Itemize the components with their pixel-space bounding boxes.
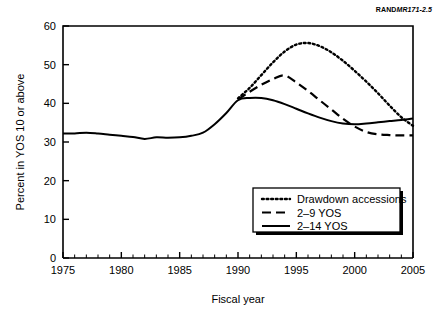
x-tick-label: 1980 — [109, 264, 133, 276]
y-tick-label: 60 — [44, 20, 56, 32]
y-tick-label: 40 — [44, 97, 56, 109]
line-chart: 1975198019851990199520002005 01020304050… — [0, 0, 442, 310]
data-series-group — [63, 43, 413, 139]
x-tick-label: 1990 — [226, 264, 250, 276]
y-tick-label: 20 — [44, 175, 56, 187]
y-tick-label: 10 — [44, 213, 56, 225]
legend-item-label: Drawdown accessions — [297, 193, 407, 205]
x-axis-title: Fiscal year — [211, 293, 265, 305]
series-line — [63, 98, 413, 139]
y-tick-label: 0 — [50, 252, 56, 264]
y-axis-tick-labels: 0102030405060 — [44, 20, 56, 264]
y-axis-ticks — [63, 26, 69, 258]
x-tick-label: 1995 — [284, 264, 308, 276]
y-axis-title: Percent in YOS 10 or above — [14, 74, 26, 211]
x-tick-label: 2005 — [401, 264, 425, 276]
series-line — [238, 75, 413, 135]
x-axis-ticks — [63, 252, 413, 258]
legend-item-label: 2–9 YOS — [297, 207, 341, 219]
x-tick-label: 2000 — [342, 264, 366, 276]
x-tick-label: 1985 — [167, 264, 191, 276]
x-axis-tick-labels: 1975198019851990199520002005 — [51, 264, 425, 276]
y-tick-label: 50 — [44, 59, 56, 71]
x-tick-label: 1975 — [51, 264, 75, 276]
legend-item-label: 2–14 YOS — [297, 220, 348, 232]
figure-container: RANDMR171-2.5 19751980198519901995200020… — [0, 0, 442, 310]
chart-legend: Drawdown accessions2–9 YOS2–14 YOS — [253, 188, 407, 235]
y-tick-label: 30 — [44, 136, 56, 148]
